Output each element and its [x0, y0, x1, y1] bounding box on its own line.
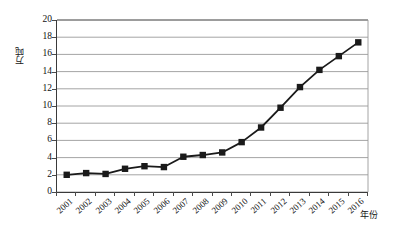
data-point-marker: [297, 84, 303, 90]
data-point-marker: [122, 166, 128, 172]
y-axis-tick-label: 12: [30, 84, 52, 94]
y-axis-tick-label: 4: [30, 153, 52, 163]
data-point-marker: [238, 139, 244, 145]
x-axis-tick-mark: [367, 192, 368, 196]
line-chart: 万吨 02468101214161820 2001200220032004200…: [0, 0, 397, 242]
x-axis-tick-label: 2012: [268, 196, 288, 215]
data-point-marker: [200, 152, 206, 158]
data-point-marker: [102, 171, 108, 177]
data-point-marker: [161, 164, 167, 170]
x-axis-tick-label: 2002: [74, 196, 94, 215]
y-axis-tick-label: 20: [30, 15, 52, 25]
y-axis-tick-label: 0: [30, 187, 52, 197]
x-axis-tick-labels: 2001200220032004200520062007200820092010…: [56, 196, 367, 240]
y-axis-tick-labels: 02468101214161820: [30, 0, 52, 242]
x-axis-tick-label: 2007: [171, 196, 191, 215]
x-axis-tick-label: 2014: [307, 196, 327, 215]
x-axis-tick-label: 2008: [190, 196, 210, 215]
y-axis-title: 万吨: [14, 26, 28, 86]
data-point-marker: [336, 53, 342, 59]
data-point-marker: [277, 105, 283, 111]
x-axis-tick-label: 2013: [288, 196, 308, 215]
x-axis-tick-label: 2001: [54, 196, 74, 215]
y-axis-tick-label: 10: [30, 101, 52, 111]
plot-area: [56, 20, 368, 192]
y-axis-tick-label: 16: [30, 49, 52, 59]
data-point-marker: [180, 154, 186, 160]
x-axis-tick-label: 2005: [132, 196, 152, 215]
x-axis-tick-label: 2003: [93, 196, 113, 215]
data-series: [57, 20, 368, 192]
y-axis-tick-label: 8: [30, 118, 52, 128]
x-axis-title: 年份: [360, 210, 378, 220]
y-axis-tick-label: 14: [30, 67, 52, 77]
x-axis-tick-label: 2009: [210, 196, 230, 215]
data-point-marker: [141, 163, 147, 169]
data-point-marker: [355, 39, 361, 45]
y-axis-tick-label: 2: [30, 170, 52, 180]
data-point-marker: [83, 170, 89, 176]
data-point-marker: [258, 124, 264, 130]
x-axis-tick-label: 2011: [249, 196, 269, 215]
x-axis-tick-label: 2010: [229, 196, 249, 215]
x-axis-tick-label: 2004: [113, 196, 133, 215]
x-axis-tick-label: 2015: [326, 196, 346, 215]
data-point-marker: [316, 67, 322, 73]
y-axis-tick-label: 6: [30, 135, 52, 145]
y-axis-tick-label: 18: [30, 32, 52, 42]
data-point-marker: [64, 172, 70, 178]
data-point-marker: [219, 149, 225, 155]
x-axis-tick-label: 2006: [152, 196, 172, 215]
series-line: [67, 42, 359, 174]
